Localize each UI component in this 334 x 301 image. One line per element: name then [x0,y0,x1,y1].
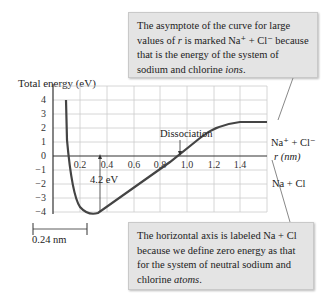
svg-text:0.2: 0.2 [74,159,87,170]
svg-text:0.4: 0.4 [101,159,114,170]
well-depth-label: 4.2 eV [90,174,118,185]
callout-text: . [199,274,202,285]
svg-text:−2: −2 [35,178,46,189]
svg-text:1: 1 [41,136,46,147]
svg-text:0.6: 0.6 [128,159,141,170]
svg-text:1.4: 1.4 [234,159,247,170]
svg-text:2: 2 [41,122,46,133]
svg-text:3: 3 [41,108,46,119]
svg-text:4: 4 [41,94,46,105]
svg-text:1.0: 1.0 [181,159,194,170]
svg-text:−1: −1 [35,164,46,175]
ions-label: Na⁺ + Cl⁻ [271,136,315,148]
neutral-atoms-callout: The horizontal axis is labeled Na + Cl b… [128,222,314,290]
callout-text: The horizontal axis is labeled Na + Cl b… [137,230,297,285]
dissociation-label: Dissociation [160,128,213,139]
equilibrium-separation-label: 0.24 nm [32,234,66,245]
svg-text:−4: −4 [35,206,46,217]
svg-text:1.2: 1.2 [208,159,221,170]
x-axis-label: r (nm) [274,151,301,162]
svg-text:0: 0 [41,150,46,161]
atoms-label: Na + Cl [272,178,305,189]
svg-text:−3: −3 [35,192,46,203]
callout-emphasis: atoms [174,274,199,285]
